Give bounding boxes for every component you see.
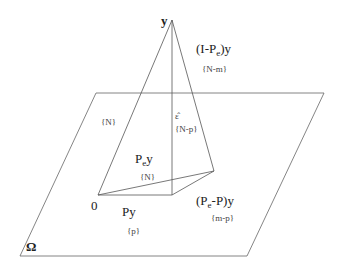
- edge-origin-to-y: [98, 20, 172, 195]
- py-label: Py: [122, 205, 136, 218]
- pe-minus-p-label: (Pe-P)y: [196, 194, 234, 210]
- pe-y-df: {N}: [140, 173, 155, 182]
- apex-label-y: y: [161, 14, 168, 27]
- py-df: {p}: [127, 227, 140, 236]
- omega-plane-label: Ω: [26, 240, 36, 253]
- residual-full-df: {N-m}: [202, 65, 227, 74]
- epsilon-hat-label: ε̂: [175, 112, 179, 121]
- pe-y-label: Pey: [135, 152, 153, 168]
- edge-origin-to-pey: [98, 171, 214, 195]
- geometry-diagram: [0, 0, 341, 273]
- observation-df: {N}: [101, 118, 116, 127]
- epsilon-df: {N-p}: [175, 125, 198, 134]
- origin-label: 0: [91, 199, 98, 212]
- pe-minus-p-df: {m-p}: [211, 214, 234, 223]
- edge-foot-to-pey: [172, 171, 214, 195]
- residual-full-label: (I-Pe)y: [196, 42, 231, 58]
